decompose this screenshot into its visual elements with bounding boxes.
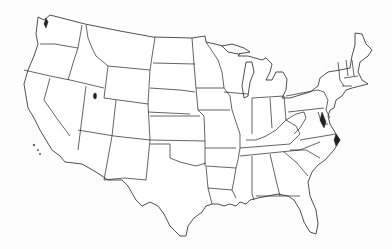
us-map-svg [0, 0, 392, 249]
us-mainland-outline [24, 15, 372, 236]
us-outline-map [0, 0, 392, 249]
great-salt-lake [94, 93, 97, 99]
